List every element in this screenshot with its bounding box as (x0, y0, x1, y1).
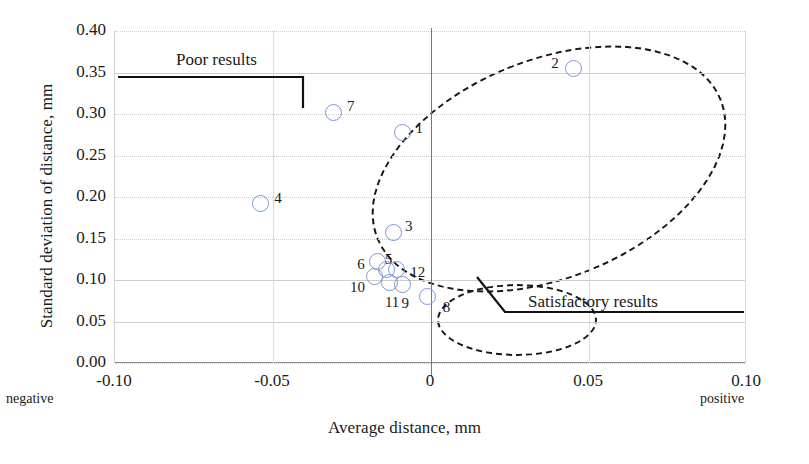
y-tick-0.10: 0.10 (42, 269, 106, 289)
data-point-label-8: 8 (443, 299, 451, 316)
x-axis-title: Average distance, mm (0, 418, 809, 438)
x-tick--0.05: -0.05 (232, 371, 312, 391)
data-point-10[interactable] (366, 268, 383, 285)
data-point-label-9: 9 (402, 295, 410, 312)
x-tick--0.10: -0.10 (74, 371, 154, 391)
x-axis-left-note: negative (6, 391, 53, 407)
data-point-label-2: 2 (551, 55, 559, 72)
data-point-12[interactable] (388, 261, 405, 278)
gridline-y-0.4 (115, 31, 745, 32)
x-axis-right-note: positive (700, 391, 744, 407)
y-tick-0.40: 0.40 (42, 20, 106, 40)
data-point-2[interactable] (565, 60, 582, 77)
gridline-y-0.1 (115, 280, 745, 281)
data-point-label-6: 6 (357, 256, 365, 273)
data-point-label-10: 10 (350, 279, 365, 296)
gridline-x-0.05 (589, 31, 590, 363)
data-point-label-11: 11 (385, 294, 399, 311)
gridline-y-0.25 (115, 156, 745, 157)
annotation-poor-results: Poor results (176, 50, 257, 70)
data-point-label-3: 3 (405, 218, 413, 235)
data-point-1[interactable] (394, 124, 411, 141)
y-tick-0.15: 0.15 (42, 228, 106, 248)
scatter-chart: Standard deviation of distance, mm Avera… (0, 0, 809, 464)
gridline-y-0.35 (115, 73, 745, 74)
data-point-8[interactable] (419, 288, 436, 305)
y-tick-0.25: 0.25 (42, 145, 106, 165)
data-point-label-4: 4 (274, 190, 282, 207)
gridline-y-0.2 (115, 197, 745, 198)
y-tick-0.30: 0.30 (42, 103, 106, 123)
gridline-y-0 (115, 363, 745, 364)
annotation-satisfactory-results: Satisfactory results (528, 292, 658, 312)
gridline-y-0.05 (115, 322, 745, 323)
y-tick-0.00: 0.00 (42, 352, 106, 372)
data-point-7[interactable] (325, 104, 342, 121)
plot-area: 123456789101112 (114, 31, 746, 363)
data-point-3[interactable] (385, 224, 402, 241)
gridline-y-0.3 (115, 114, 745, 115)
x-tick-0.10: 0.10 (706, 371, 786, 391)
x-tick-0.05: 0.05 (548, 371, 628, 391)
zero-reference-line (431, 28, 432, 377)
data-point-4[interactable] (252, 195, 269, 212)
y-tick-0.35: 0.35 (42, 62, 106, 82)
x-tick-0: 0 (390, 371, 470, 391)
y-tick-0.20: 0.20 (42, 186, 106, 206)
data-point-label-1: 1 (416, 120, 424, 137)
data-point-label-12: 12 (410, 264, 425, 281)
data-point-label-7: 7 (347, 98, 355, 115)
gridline-y-0.15 (115, 239, 745, 240)
y-tick-0.05: 0.05 (42, 311, 106, 331)
